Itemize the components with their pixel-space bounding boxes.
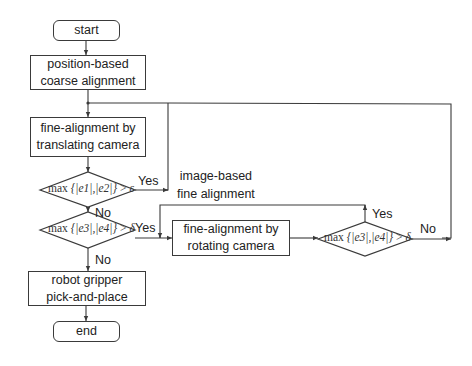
decision3-condition: max {|e3|,|e4|} > δ (324, 231, 408, 243)
gripper-line1: robot gripper (52, 272, 123, 289)
d1-yes-label: Yes (138, 173, 158, 190)
decision1-condition: max {|e1|,|e2|} > ε (48, 182, 130, 194)
end-node: end (53, 321, 120, 342)
d3-yes-label: Yes (372, 206, 392, 223)
rotate-line1: fine-alignment by (183, 221, 278, 238)
d3-no-label: No (420, 221, 436, 238)
start-label: start (74, 22, 98, 39)
translate-node: fine-alignment by translating camera (30, 117, 146, 157)
end-label: end (76, 323, 97, 340)
decision2-condition: max {|e3|,|e4|} > δ (48, 222, 130, 234)
translate-line1: fine-alignment by (40, 120, 135, 137)
rotate-line2: rotating camera (188, 238, 275, 255)
d1-no-label: No (95, 205, 111, 222)
d2-yes-label: Yes (135, 220, 155, 237)
start-node: start (53, 20, 120, 41)
coarse-line2: coarse alignment (40, 73, 135, 90)
d2-no-label: No (95, 252, 111, 269)
coarse-alignment-node: position-based coarse alignment (30, 55, 146, 90)
gripper-line2: pick-and-place (46, 289, 127, 306)
translate-line2: translating camera (37, 137, 140, 154)
image-based-annotation: image-based fine alignment (177, 167, 255, 203)
rotate-node: fine-alignment by rotating camera (172, 220, 290, 256)
coarse-line1: position-based (47, 56, 128, 73)
gripper-node: robot gripper pick-and-place (28, 271, 146, 306)
